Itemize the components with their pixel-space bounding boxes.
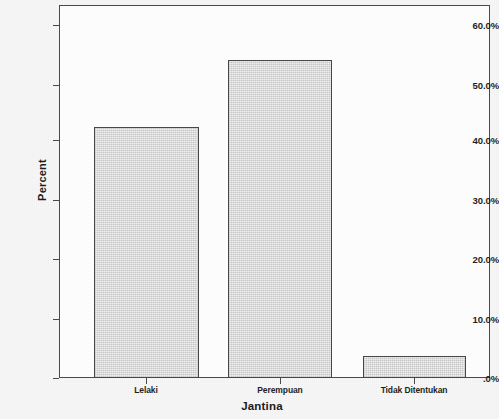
y-tick-label-60: 60.0% [447, 20, 499, 31]
y-tick-mark-60 [53, 25, 59, 26]
x-tick-label-tidak-ditentukan: Tidak Ditentukan [354, 385, 474, 395]
y-tick-mark-30 [53, 200, 59, 201]
y-tick-mark-20 [53, 259, 59, 260]
x-tick-mark-perempuan [280, 378, 281, 384]
y-tick-mark-40 [53, 140, 59, 141]
bar-tidak-ditentukan [363, 356, 466, 378]
bar-chart: Percent 60.0% 50.0% 40.0% 30.0% 20.0% 10… [0, 0, 499, 419]
x-tick-label-perempuan: Perempuan [220, 385, 340, 395]
bar-perempuan [228, 60, 332, 378]
x-tick-mark-lelaki [146, 378, 147, 384]
y-tick-mark-10 [53, 319, 59, 320]
x-tick-label-lelaki: Lelaki [86, 385, 206, 395]
y-tick-label-40: 40.0% [447, 135, 499, 146]
y-tick-mark-0 [53, 378, 59, 379]
y-axis-title: Percent [36, 130, 48, 230]
x-tick-mark-tidak-ditentukan [414, 378, 415, 384]
y-tick-label-30: 30.0% [447, 195, 499, 206]
y-tick-label-50: 50.0% [447, 80, 499, 91]
y-tick-mark-50 [53, 85, 59, 86]
y-tick-label-20: 20.0% [447, 254, 499, 265]
bar-lelaki [94, 127, 199, 378]
x-axis-title: Jantina [59, 400, 465, 412]
y-tick-label-10: 10.0% [447, 314, 499, 325]
